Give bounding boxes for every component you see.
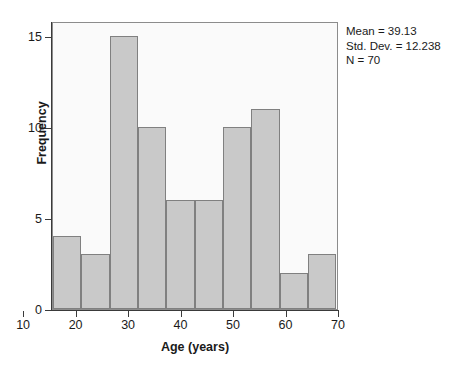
bars-layer — [53, 23, 337, 309]
histogram-bar — [195, 200, 223, 309]
x-axis-tick-label: 50 — [213, 319, 253, 332]
histogram-bar — [166, 200, 194, 309]
y-axis-tick-label: 15 — [0, 31, 42, 44]
x-axis-tick — [338, 311, 339, 317]
x-axis-tick-label: 60 — [266, 319, 306, 332]
x-axis-tick-label: 40 — [161, 319, 201, 332]
y-axis-title: Frequency — [35, 101, 49, 164]
stats-stddev: Std. Dev. = 12.238 — [346, 39, 441, 54]
x-axis-tick-label: 20 — [56, 319, 96, 332]
x-axis-tick-label: 70 — [318, 319, 358, 332]
histogram-bar — [110, 36, 138, 309]
histogram-bar — [223, 127, 251, 309]
x-axis-tick — [76, 311, 77, 317]
stats-mean: Mean = 39.13 — [346, 24, 441, 39]
x-axis-tick — [181, 311, 182, 317]
histogram-bar — [280, 273, 308, 309]
histogram-bar — [53, 236, 81, 309]
y-axis-tick — [45, 37, 52, 38]
stats-n: N = 70 — [346, 53, 441, 68]
histogram-bar — [251, 109, 279, 310]
y-axis-line — [51, 22, 52, 311]
x-axis-title: Age (years) — [0, 340, 390, 354]
y-axis-tick-label: 5 — [0, 213, 42, 226]
plot-area — [52, 22, 338, 310]
x-axis-tick-label: 30 — [108, 319, 148, 332]
histogram-bar — [138, 127, 166, 309]
x-axis-tick — [233, 311, 234, 317]
histogram-bar — [81, 254, 109, 309]
stats-annotation: Mean = 39.13 Std. Dev. = 12.238 N = 70 — [346, 24, 441, 68]
x-axis-tick — [286, 311, 287, 317]
y-axis-tick — [45, 219, 52, 220]
x-axis-line — [52, 310, 339, 311]
histogram-bar — [308, 254, 336, 309]
y-axis-tick — [45, 310, 52, 311]
x-axis-tick — [128, 311, 129, 317]
x-axis-tick — [23, 311, 24, 317]
y-axis-tick-label: 0 — [0, 304, 42, 317]
x-axis-tick-label: 10 — [3, 319, 43, 332]
histogram-figure: 051015 Frequency 10203040506070 Age (yea… — [0, 0, 454, 369]
